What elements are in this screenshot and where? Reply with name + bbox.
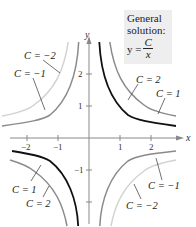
box-title-line1: General	[127, 12, 169, 24]
general-solution-box: General solution: y = C x	[124, 10, 172, 64]
formula: y = C x	[127, 37, 169, 60]
label-tr-c1: C = 1	[156, 88, 181, 99]
label-bl-c1: C = 1	[12, 184, 37, 195]
label-tl-c-neg1: C = −1	[14, 68, 46, 79]
x-tick-label-2: 2	[149, 143, 154, 152]
label-br-c-neg1: C = −1	[148, 180, 180, 191]
box-title-line2: solution:	[127, 24, 169, 36]
y-tick-label-1: 1	[78, 102, 83, 111]
label-bl-c2: C = 2	[26, 198, 51, 209]
formula-denominator: x	[146, 49, 151, 60]
x-axis-arrow-icon	[176, 136, 184, 141]
x-tick-label-neg1: −1	[53, 143, 63, 152]
y-tick-label-2: 2	[78, 70, 83, 79]
formula-fraction: C x	[143, 37, 152, 60]
label-tr-c2: C = 2	[136, 74, 161, 85]
formula-lhs: y =	[127, 43, 141, 55]
label-tl-c-neg2: C = −2	[24, 50, 56, 61]
x-tick-label-neg2: −2	[21, 143, 31, 152]
y-tick-label-neg1: −1	[74, 166, 84, 175]
curve-c-neg2-lower-right	[111, 160, 176, 226]
y-axis-label: y	[85, 30, 89, 40]
label-br-c-neg2: C = −2	[126, 200, 158, 211]
axes	[10, 36, 184, 224]
x-tick-label-1: 1	[118, 143, 123, 152]
x-axis-label: x	[186, 133, 190, 143]
